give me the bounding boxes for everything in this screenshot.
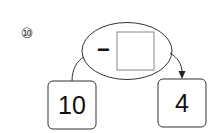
start-value: 10 [48,81,96,129]
result-value: 4 [158,79,206,127]
minus-operator: − [95,36,112,64]
blank-answer-box[interactable] [117,32,154,70]
arrowhead-icon [179,71,186,79]
problem-number: ⑩ [17,24,37,42]
left-connector-arc [72,57,84,81]
